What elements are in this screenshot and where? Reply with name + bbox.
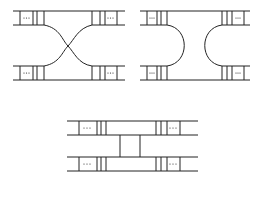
ellipsis-icon — [149, 17, 240, 73]
crossed-ladders-panel — [13, 11, 125, 80]
rung-connected-ladders-panel — [67, 121, 198, 171]
turnaround-ladders-panel — [140, 11, 250, 80]
diagram-canvas — [0, 0, 260, 203]
